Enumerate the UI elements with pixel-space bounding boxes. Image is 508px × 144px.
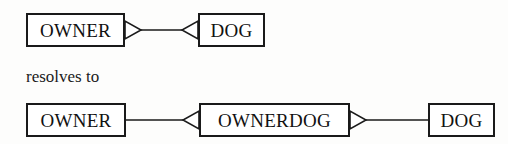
crowfoot-icon-ownerdog-left — [183, 111, 199, 129]
entity-label-owner-bottom: OWNER — [40, 111, 111, 130]
entity-box-owner-top: OWNER — [26, 13, 125, 47]
entity-label-ownerdog: OWNERDOG — [218, 111, 331, 130]
entity-label-dog-top: DOG — [210, 21, 252, 40]
entity-box-dog-top: DOG — [198, 13, 265, 47]
entity-box-dog-bottom: DOG — [428, 103, 495, 137]
entity-box-ownerdog: OWNERDOG — [199, 103, 350, 137]
crowfoot-icon-ownerdog-right — [350, 111, 366, 129]
entity-label-owner-top: OWNER — [40, 21, 111, 40]
caption-resolves-to: resolves to — [26, 68, 99, 85]
entity-label-dog-bottom: DOG — [440, 111, 482, 130]
entity-box-owner-bottom: OWNER — [26, 103, 126, 137]
crowfoot-icon-owner-top-right — [125, 21, 141, 39]
er-diagram-canvas: OWNER DOG resolves to OWNER OWNERDOG DOG — [0, 0, 508, 144]
crowfoot-icon-dog-top-left — [182, 21, 198, 39]
